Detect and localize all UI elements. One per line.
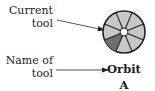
tool-wheel-icon[interactable] [103,11,145,54]
current-tool-arrow [57,20,104,30]
tool-shortcut: A [104,78,144,91]
tool-name: Orbit [104,62,144,76]
